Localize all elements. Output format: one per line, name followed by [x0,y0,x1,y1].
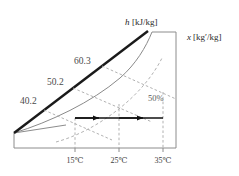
chart-frame [14,32,176,148]
enthalpy-label-60: 60.3 [74,56,91,66]
temp-label-35: 35℃ [155,156,172,165]
humidity-axis-label: x [186,32,191,42]
temp-label-15: 15℃ [67,156,84,165]
rh-curve-50 [56,58,162,142]
enthalpy-line-50 [73,88,152,122]
enthalpy-line-60 [102,66,176,99]
enthalpy-axis-label: h [125,17,130,27]
enthalpy-line-40 [44,110,112,140]
enthalpy-axis-unit: [kJ/kg] [132,17,158,27]
psychrometric-chart: h [kJ/kg] x [kg′/kg] 60.3 50.2 40.2 50% … [0,0,239,176]
enthalpy-gridlines [44,66,176,140]
frame-outline [14,32,176,148]
enthalpy-label-40: 40.2 [20,96,37,106]
temp-label-25: 25℃ [111,156,128,165]
humidity-axis-unit: [kg′/kg] [193,32,221,42]
chart-canvas: h [kJ/kg] x [kg′/kg] 60.3 50.2 40.2 50% … [0,0,239,176]
enthalpy-label-50: 50.2 [47,77,64,87]
axis-ticks [75,148,163,152]
rh-label-50: 50% [148,93,164,103]
